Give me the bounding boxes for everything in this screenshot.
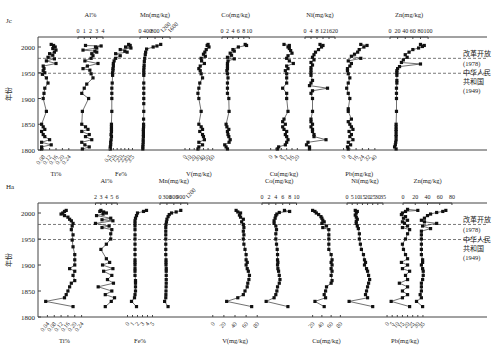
data-point — [164, 289, 167, 292]
data-point — [110, 274, 113, 277]
data-point — [90, 72, 93, 75]
data-point — [406, 285, 409, 288]
y-tick-label: 2000 — [21, 210, 36, 218]
data-point — [143, 60, 146, 63]
data-point — [63, 214, 66, 217]
data-point — [429, 212, 432, 215]
data-point — [350, 118, 353, 121]
x-tick-label: 0 — [139, 28, 142, 34]
x-tick-label: 60 — [241, 321, 249, 329]
data-point — [323, 293, 326, 296]
data-point — [276, 263, 279, 266]
data-point — [281, 87, 284, 90]
data-point — [71, 245, 74, 248]
x-tick-label: 5 — [110, 194, 113, 200]
data-point — [71, 274, 74, 277]
annotation-prc: 中华人民 — [463, 68, 491, 77]
x-tick-label: 5 — [149, 321, 156, 327]
x-tick-label: 0 — [261, 194, 264, 200]
data-point — [80, 130, 83, 133]
x-tick-label: 40 — [230, 321, 238, 329]
data-point — [395, 81, 398, 84]
data-point — [246, 285, 249, 288]
data-point — [285, 76, 288, 79]
data-point — [145, 209, 148, 212]
data-point — [400, 213, 403, 216]
data-point — [276, 253, 279, 256]
x-tick-label: 2 — [267, 194, 270, 200]
data-point — [164, 243, 167, 246]
data-point — [110, 228, 113, 231]
data-point — [400, 61, 403, 64]
x-tick-label: 40 — [402, 28, 408, 34]
x-axis-title: Zn(mg/kg) — [413, 177, 441, 185]
data-point — [164, 248, 167, 251]
data-point — [50, 143, 53, 146]
x-axis-title: Al% — [100, 177, 113, 184]
x-tick-label: 10 — [246, 28, 252, 34]
data-point — [236, 210, 239, 213]
data-point — [347, 59, 350, 62]
data-point — [272, 296, 275, 299]
data-point — [86, 64, 89, 67]
data-point — [423, 220, 426, 223]
data-point — [90, 138, 93, 141]
data-point — [404, 274, 407, 277]
data-point — [226, 76, 229, 79]
data-point — [133, 274, 136, 277]
data-point — [80, 123, 83, 126]
data-point — [265, 300, 268, 303]
data-point — [406, 224, 409, 227]
data-point — [444, 209, 447, 212]
data-point — [435, 222, 438, 225]
data-point — [159, 43, 162, 46]
data-point — [419, 62, 422, 65]
track-znmgkg: 020406080Zn(mg/kg) — [402, 177, 455, 308]
data-point — [274, 232, 277, 235]
data-point — [275, 289, 278, 292]
data-point — [164, 293, 167, 296]
x-axis-title: Al% — [85, 11, 98, 18]
data-point — [73, 258, 76, 261]
y-axis-label: 年份 — [4, 253, 13, 267]
data-point — [134, 285, 137, 288]
data-point — [164, 237, 167, 240]
chart-canvas: 18001850190019502000年份Jc改革开放(1978)中华人民共和… — [0, 0, 503, 356]
x-tick-label: 3 — [95, 28, 98, 34]
data-point — [73, 263, 76, 266]
x-tick-label: 3 — [99, 194, 102, 200]
x-axis-title: Fe% — [115, 170, 128, 177]
data-point — [285, 135, 288, 138]
x-axis-title: Cu(mg/kg) — [312, 337, 341, 345]
data-point — [358, 237, 361, 240]
data-point — [404, 210, 407, 213]
data-point — [202, 135, 205, 138]
data-point — [327, 233, 330, 236]
data-point — [230, 54, 233, 57]
x-axis-title: Ti% — [59, 337, 71, 344]
data-point — [359, 243, 362, 246]
data-point — [100, 44, 103, 47]
data-point — [227, 141, 230, 144]
data-point — [422, 270, 425, 273]
data-point — [59, 212, 62, 215]
x-tick-label: 8 — [316, 28, 319, 34]
data-point — [401, 243, 404, 246]
data-point — [196, 92, 199, 95]
data-point — [371, 305, 374, 308]
data-point — [164, 296, 167, 299]
data-point — [164, 223, 167, 226]
x-tick-label: 60 — [410, 28, 416, 34]
track-comgkg: 0246810Co(mg/kg) — [221, 11, 253, 151]
data-point — [100, 226, 103, 229]
data-point — [317, 48, 320, 51]
data-point — [227, 110, 230, 113]
x-tick-label: 60 — [207, 154, 215, 162]
data-point — [145, 47, 148, 50]
data-point — [45, 110, 48, 113]
data-point — [226, 81, 229, 84]
data-point — [406, 293, 409, 296]
data-point — [109, 237, 112, 240]
data-point — [142, 130, 145, 133]
data-point — [164, 263, 167, 266]
